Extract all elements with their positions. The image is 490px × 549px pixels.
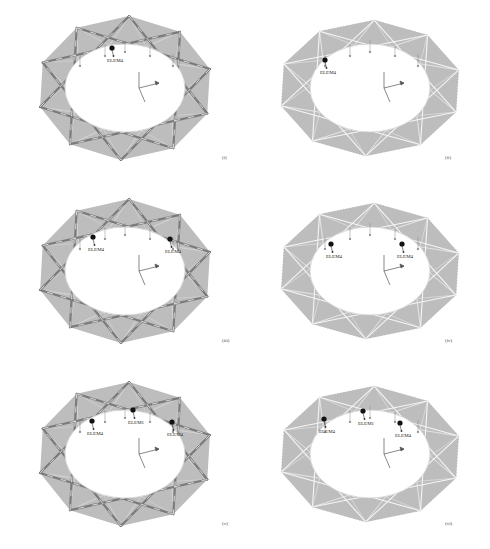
panel-iii: ELEM4ELEM4(iii) xyxy=(0,183,245,366)
svg-text:ELEM4: ELEM4 xyxy=(397,254,414,259)
panel-label: (i) xyxy=(222,155,227,160)
panel-ii: ELEM4(ii) xyxy=(245,0,490,183)
cable-dome-diagram: ELEM4ELEM1ELEM4 xyxy=(245,366,490,549)
panel-vi: ELEM4ELEM1ELEM4(vi) xyxy=(245,366,490,549)
cable-dome-diagram: ELEM4 xyxy=(245,0,490,183)
svg-text:ELEM4: ELEM4 xyxy=(320,70,337,75)
panel-label: (iv) xyxy=(445,338,452,343)
svg-text:ELEM1: ELEM1 xyxy=(358,421,375,426)
panel-label: (iii) xyxy=(222,338,230,343)
panel-i: ELEM4(i) xyxy=(0,0,245,183)
panel-iv: ELEM4ELEM4(iv) xyxy=(245,183,490,366)
svg-text:ELEM4: ELEM4 xyxy=(167,432,184,437)
cable-dome-diagram: ELEM4 xyxy=(0,0,245,183)
svg-text:ELEM4: ELEM4 xyxy=(87,431,104,436)
svg-text:ELEM4: ELEM4 xyxy=(107,58,124,63)
cable-dome-diagram: ELEM4ELEM1ELEM4 xyxy=(0,366,245,549)
panel-v: ELEM4ELEM1ELEM4(v) xyxy=(0,366,245,549)
svg-text:ELEM4: ELEM4 xyxy=(326,254,343,259)
svg-text:ELEM1: ELEM1 xyxy=(128,420,145,425)
panel-label: (ii) xyxy=(445,155,451,160)
svg-text:ELEM4: ELEM4 xyxy=(395,433,412,438)
cable-dome-diagram: ELEM4ELEM4 xyxy=(245,183,490,366)
svg-text:ELEM4: ELEM4 xyxy=(88,247,105,252)
panel-label: (vi) xyxy=(445,521,452,526)
svg-text:ELEM4: ELEM4 xyxy=(319,429,336,434)
cable-dome-diagram: ELEM4ELEM4 xyxy=(0,183,245,366)
panel-label: (v) xyxy=(222,521,228,526)
svg-text:ELEM4: ELEM4 xyxy=(165,249,182,254)
